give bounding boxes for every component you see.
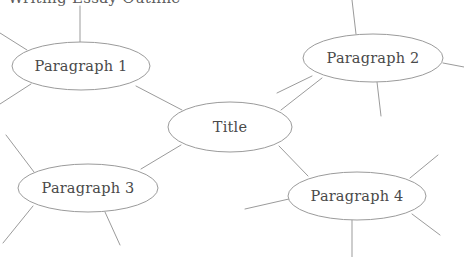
node-paragraph-1-label: Paragraph 1: [35, 58, 128, 74]
title-to-paragraph-4: [279, 146, 308, 176]
title-to-paragraph-3: [141, 145, 181, 169]
branch-p1-upper-left: [0, 33, 27, 50]
node-paragraph-3[interactable]: Paragraph 3: [18, 164, 158, 212]
mindmap-canvas: Writing Essay Outline Paragraph 1Paragra…: [0, 0, 464, 257]
node-paragraph-4[interactable]: Paragraph 4: [288, 172, 426, 220]
node-title-label: Title: [213, 119, 247, 135]
branch-p3-lower-right: [105, 212, 120, 245]
node-paragraph-2[interactable]: Paragraph 2: [303, 34, 443, 82]
branch-p2-top: [352, 0, 356, 34]
branch-p3-lower-left: [3, 206, 33, 243]
node-title[interactable]: Title: [168, 102, 292, 152]
node-paragraph-4-label: Paragraph 4: [311, 188, 404, 204]
node-paragraph-3-label: Paragraph 3: [42, 180, 135, 196]
branch-p2-bottom: [377, 82, 381, 116]
node-paragraph-1[interactable]: Paragraph 1: [12, 42, 150, 90]
branch-p4-left: [245, 199, 289, 209]
branch-p2-right: [443, 63, 464, 67]
title-to-paragraph-2: [281, 78, 322, 110]
branch-p1-lower-left: [0, 84, 31, 104]
node-paragraph-2-label: Paragraph 2: [327, 50, 420, 66]
mindmap-svg: Paragraph 1Paragraph 2Paragraph 3Paragra…: [0, 0, 464, 257]
branch-p4-lower-right: [412, 214, 440, 235]
branch-p4-upper-right: [410, 155, 438, 178]
title-to-paragraph-1: [136, 86, 182, 110]
nodes-group: Paragraph 1Paragraph 2Paragraph 3Paragra…: [12, 34, 443, 220]
branch-p3-upper-left: [6, 135, 34, 172]
clipped-header-text: Writing Essay Outline: [8, 0, 181, 7]
